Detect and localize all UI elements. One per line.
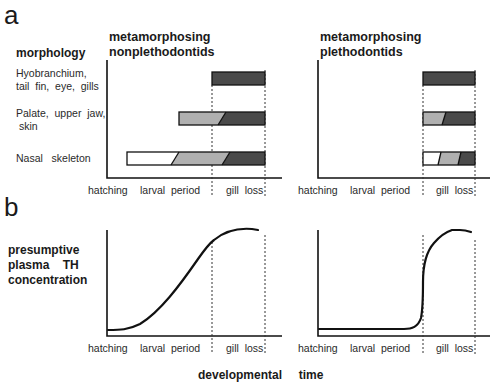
curve-plethodontids xyxy=(319,230,471,329)
bars-nonplethodontids xyxy=(127,72,265,165)
bars-plethodontids xyxy=(423,72,475,165)
diagram-graphics xyxy=(0,0,492,389)
bar-nasal xyxy=(127,152,265,165)
axis-b-right xyxy=(318,230,490,336)
bar-hyobranchium xyxy=(423,72,475,85)
axis-b-left xyxy=(107,230,282,336)
bar-hyobranchium xyxy=(212,72,265,85)
axes xyxy=(107,60,490,336)
bar-nasal xyxy=(423,152,475,165)
curve-nonplethodontids xyxy=(108,229,258,330)
th-curves xyxy=(108,229,471,330)
bar-palate xyxy=(423,112,475,125)
bar-palate xyxy=(179,112,265,125)
